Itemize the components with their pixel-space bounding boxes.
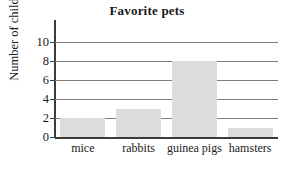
y-tick-label: 2 (23, 111, 49, 125)
y-tick-mark (50, 99, 55, 100)
bar (116, 109, 161, 138)
y-axis-label: Number of children (7, 0, 22, 91)
y-tick-mark (50, 80, 55, 81)
y-tick-label: 6 (23, 73, 49, 87)
bar (60, 118, 105, 137)
y-tick-label: 0 (23, 130, 49, 144)
gridline (55, 99, 278, 100)
y-tick-mark (50, 137, 55, 138)
gridline (55, 42, 278, 43)
y-tick-mark (50, 61, 55, 62)
x-axis-line (55, 137, 278, 139)
bar (172, 61, 217, 137)
chart-title: Favorite pets (0, 3, 294, 19)
y-tick-mark (50, 118, 55, 119)
x-tick-label: hamsters (222, 142, 278, 155)
bar (228, 128, 273, 138)
y-tick-mark (50, 42, 55, 43)
y-tick-label: 4 (23, 92, 49, 106)
x-tick-label: rabbits (111, 142, 167, 155)
gridline (55, 80, 278, 81)
x-tick-label: mice (55, 142, 111, 155)
y-tick-label: 10 (23, 35, 49, 49)
y-tick-label: 8 (23, 54, 49, 68)
x-tick-label: guinea pigs (167, 142, 223, 155)
plot-area: 0246810 (55, 42, 278, 137)
chart-figure: Favorite pets Number of children 0246810… (0, 0, 294, 183)
gridline (55, 61, 278, 62)
